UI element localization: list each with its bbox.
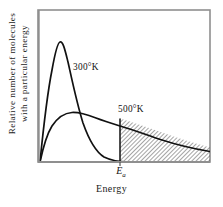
maxwell-boltzmann-distribution-figure: Relative number of molecules with a part… (0, 0, 223, 207)
y-axis-label-line-1: Relative number of molecules (7, 0, 19, 154)
x-axis-label: Energy (0, 183, 223, 194)
y-axis-label-line-2: with a particular energy (18, 0, 30, 154)
curve-label-300k: 300°K (73, 62, 99, 72)
ea-subscript: a (122, 171, 126, 179)
x-tick-label-activation-energy: Ea (108, 165, 134, 179)
curve-label-500k: 500°K (118, 104, 144, 114)
y-axis-label: Relative number of molecules with a part… (7, 0, 30, 154)
